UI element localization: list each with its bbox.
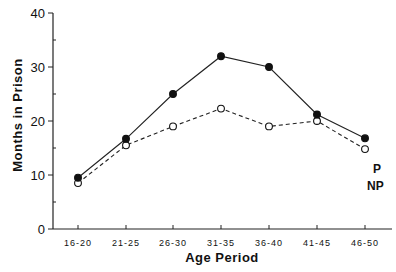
- y-axis-ticks: 010203040: [31, 6, 56, 237]
- x-tick-label: 21-25: [112, 238, 140, 248]
- x-tick-label: 36-40: [255, 238, 283, 248]
- series-line-p: [78, 56, 365, 178]
- filled-circle-marker: [123, 135, 130, 142]
- y-tick-label: 30: [31, 60, 45, 75]
- open-circle-marker: [218, 105, 225, 112]
- filled-circle-marker: [362, 135, 369, 142]
- filled-circle-marker: [314, 111, 321, 118]
- x-tick-label: 26-30: [159, 238, 187, 248]
- open-circle-marker: [123, 142, 130, 149]
- series-label-p: P: [373, 162, 381, 176]
- open-circle-marker: [170, 123, 177, 130]
- x-tick-label: 41-45: [303, 238, 331, 248]
- filled-circle-marker: [266, 64, 273, 71]
- x-tick-label: 46-50: [351, 238, 379, 248]
- filled-circle-marker: [218, 53, 225, 60]
- series-line-np: [78, 109, 365, 184]
- y-tick-label: 20: [31, 114, 45, 129]
- open-circle-marker: [266, 123, 273, 130]
- series-np: [75, 105, 369, 186]
- series-p: [75, 53, 369, 181]
- series-label-np: NP: [367, 179, 384, 193]
- y-tick-label: 40: [31, 6, 45, 21]
- filled-circle-marker: [170, 91, 177, 98]
- x-axis-title: Age Period: [185, 250, 259, 265]
- y-tick-label: 0: [38, 222, 45, 237]
- axes: [53, 13, 392, 229]
- x-tick-label: 31-35: [207, 238, 235, 248]
- x-tick-label: 16-20: [64, 238, 92, 248]
- y-axis-title: Months in Prison: [10, 58, 25, 171]
- open-circle-marker: [362, 146, 369, 153]
- filled-circle-marker: [75, 174, 82, 181]
- y-tick-label: 10: [31, 168, 45, 183]
- open-circle-marker: [314, 118, 321, 125]
- line-chart: 010203040 16-2021-2526-3031-3536-4041-45…: [0, 0, 396, 272]
